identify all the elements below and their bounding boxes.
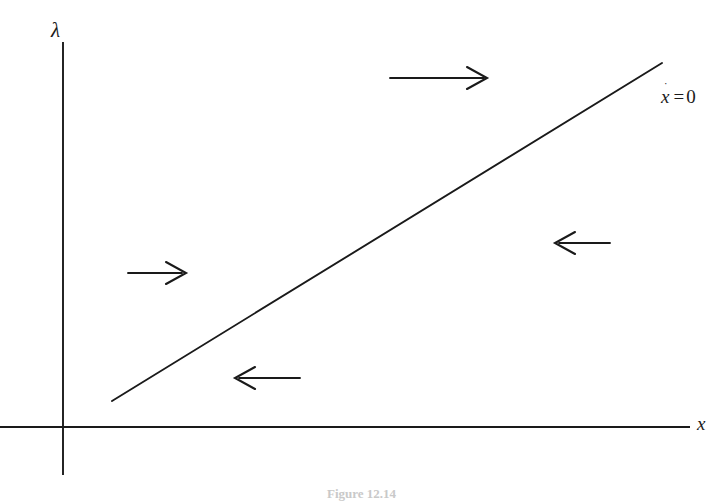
overdot-accent-icon: ˙ [664, 82, 668, 94]
x-axis-label: x [697, 414, 705, 433]
nullcline-label-operator: = [669, 86, 686, 107]
arrow-upper-right [390, 67, 487, 89]
nullcline-label-variable: ˙x [661, 87, 669, 106]
nullcline-label: ˙x=0 [661, 87, 696, 106]
arrow-left-middle [128, 262, 186, 284]
arrow-right-middle [555, 232, 610, 254]
figure-caption: Figure 12.14 [0, 486, 723, 502]
y-axis-label: λ [51, 20, 60, 41]
nullcline-label-value: 0 [686, 86, 696, 107]
arrow-lower-middle [235, 367, 300, 389]
nullcline-line [112, 63, 662, 401]
